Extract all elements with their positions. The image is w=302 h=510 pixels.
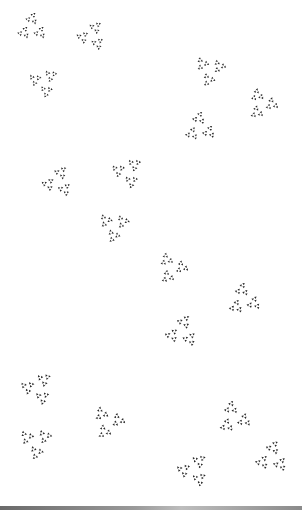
fractal-cluster bbox=[17, 13, 44, 38]
fractal-cluster bbox=[161, 253, 188, 282]
fractal-cluster bbox=[251, 88, 278, 117]
fractal-cluster bbox=[198, 57, 227, 85]
fractal-cluster bbox=[30, 71, 57, 98]
fractal-cluster bbox=[220, 401, 250, 431]
fractal-cluster bbox=[77, 23, 103, 50]
fractal-cluster bbox=[113, 160, 141, 188]
fractal-canvas bbox=[0, 0, 302, 500]
fractal-cluster bbox=[101, 214, 130, 241]
fractal-cluster bbox=[229, 283, 259, 313]
fractal-cluster bbox=[185, 112, 214, 140]
fractal-cluster bbox=[22, 374, 51, 404]
fractal-cluster bbox=[96, 407, 126, 438]
fractal-cluster bbox=[255, 442, 285, 472]
bottom-border bbox=[0, 506, 302, 510]
fractal-cluster bbox=[165, 316, 195, 346]
fractal-cluster bbox=[22, 430, 53, 459]
fractal-cluster bbox=[177, 456, 205, 487]
fractal-cluster bbox=[42, 167, 70, 196]
